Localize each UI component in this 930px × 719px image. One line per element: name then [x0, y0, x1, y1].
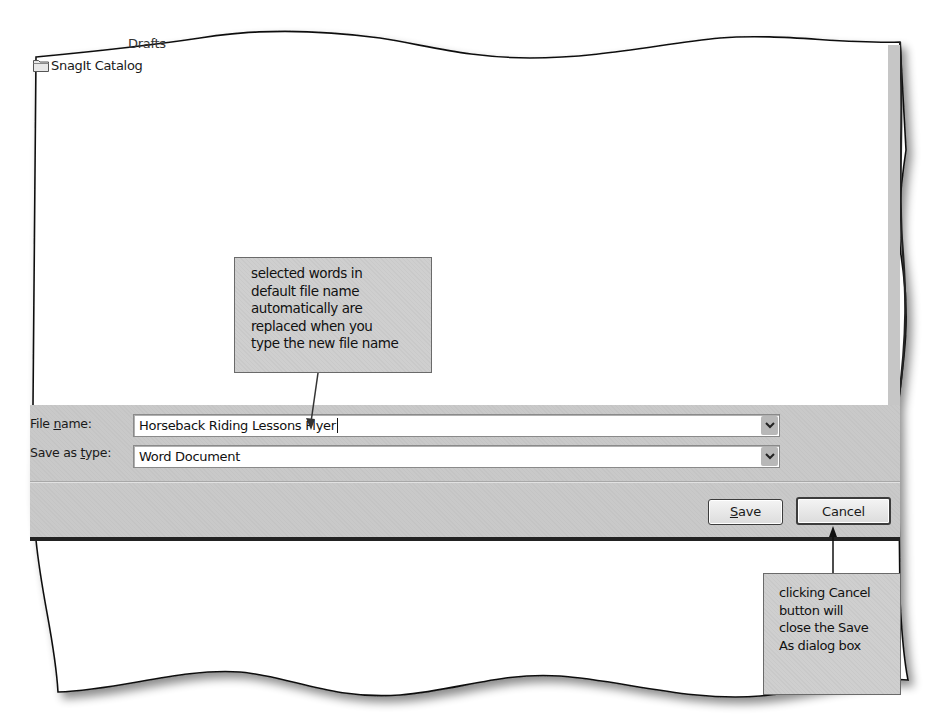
chevron-down-icon: [765, 422, 775, 429]
list-item[interactable]: Drafts: [128, 36, 166, 51]
save-as-type-select[interactable]: Word Document: [133, 445, 780, 468]
divider: [30, 481, 900, 483]
file-name-label: File name:: [30, 416, 92, 431]
folder-icon: [33, 59, 49, 72]
folder-label: Drafts: [128, 36, 166, 51]
file-name-dropdown-button[interactable]: [761, 416, 778, 435]
callout-text: close the Save: [779, 619, 900, 637]
save-as-type-label: Save as type:: [30, 445, 111, 460]
folder-label: SnagIt Catalog: [51, 58, 143, 73]
callout-text: replaced when you: [251, 318, 431, 336]
text-caret: [337, 418, 338, 433]
chevron-down-icon: [765, 453, 775, 460]
save-as-type-value: Word Document: [139, 449, 240, 464]
save-button[interactable]: Save: [708, 499, 783, 525]
file-name-input[interactable]: Horseback Riding Lessons Flyer: [133, 414, 780, 437]
window-bottom-edge: [30, 537, 900, 541]
file-list[interactable]: Drafts SnagIt Catalog: [33, 40, 888, 405]
callout-text: automatically are: [251, 300, 431, 318]
list-item[interactable]: SnagIt Catalog: [33, 58, 143, 73]
callout-text: As dialog box: [779, 637, 900, 655]
file-name-value: Horseback Riding Lessons Flyer: [139, 418, 338, 433]
save-as-type-dropdown-button[interactable]: [761, 447, 778, 466]
callout-text: default file name: [251, 283, 431, 301]
cancel-button[interactable]: Cancel: [796, 497, 891, 525]
callout-file-name: selected words in default file name auto…: [234, 257, 432, 373]
callout-text: selected words in: [251, 265, 431, 283]
window-frame-right: [888, 45, 900, 405]
callout-text: clicking Cancel: [779, 584, 900, 602]
callout-cancel: clicking Cancel button will close the Sa…: [763, 573, 901, 695]
callout-text: type the new file name: [251, 335, 431, 353]
callout-text: button will: [779, 602, 900, 620]
